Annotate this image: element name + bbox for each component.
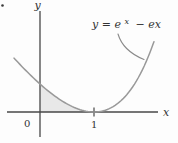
plot-canvas: y = e x − ex x y 0 1 — [0, 0, 178, 143]
equation-prefix: y = e — [91, 18, 121, 31]
equation-superscript: x — [124, 17, 129, 26]
function-plot-figure: y = e x − ex x y 0 1 — [0, 0, 178, 143]
tick-label-1: 1 — [91, 119, 97, 130]
origin-label: 0 — [24, 118, 30, 129]
curve-equation-label: y = e x − ex — [91, 14, 162, 31]
y-axis-label: y — [34, 0, 42, 12]
label-leader-line — [118, 34, 144, 60]
curve-path — [14, 42, 154, 112]
x-axis-label: x — [163, 106, 170, 119]
equation-suffix: − ex — [135, 18, 161, 31]
corner-period-dot — [1, 4, 4, 7]
shaded-region — [40, 84, 94, 112]
